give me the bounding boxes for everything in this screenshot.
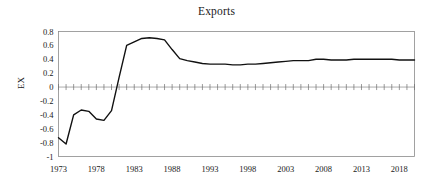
y-tick-label: -0.2 xyxy=(40,96,53,106)
y-tick-label: 0.2 xyxy=(43,68,54,78)
chart-figure: Exports EX 0.80.60.40.20-0.2-0.4-0.6-0.8… xyxy=(0,0,433,188)
series-line-ex xyxy=(59,38,415,144)
y-tick-label: 0.6 xyxy=(43,40,54,50)
x-tick-label: 1983 xyxy=(126,164,143,174)
y-tick-label: 0.4 xyxy=(43,54,54,64)
x-tick-label: 1993 xyxy=(201,164,218,174)
y-tick-label: -0.4 xyxy=(40,110,54,120)
x-tick-label: 1978 xyxy=(88,164,105,174)
plot-frame xyxy=(59,32,415,157)
x-axis-tick-labels: 1973197819831988199319982003200820132018 xyxy=(50,164,408,174)
y-tick-label: -0.6 xyxy=(40,124,53,134)
x-tick-label: 1988 xyxy=(164,164,181,174)
y-tick-label: -0.8 xyxy=(40,138,53,148)
x-tick-label: 1973 xyxy=(50,164,67,174)
x-tick-label: 2003 xyxy=(277,164,294,174)
y-tick-label: 0 xyxy=(49,82,53,92)
y-axis-tick-labels: 0.80.60.40.20-0.2-0.4-0.6-0.8-1 xyxy=(40,27,54,162)
x-tick-label: 2018 xyxy=(391,164,408,174)
x-tick-label: 2008 xyxy=(315,164,332,174)
y-tick-label: 0.8 xyxy=(43,27,54,37)
x-tick-label: 2013 xyxy=(353,164,370,174)
x-tick-label: 1998 xyxy=(239,164,256,174)
y-tick-label: -1 xyxy=(46,152,53,162)
exports-line-chart: 0.80.60.40.20-0.2-0.4-0.6-0.8-1 19731978… xyxy=(0,0,433,188)
